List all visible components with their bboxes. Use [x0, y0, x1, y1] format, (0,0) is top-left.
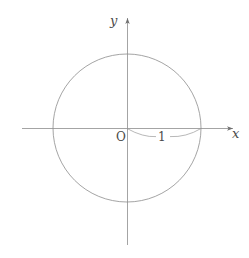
- y-axis-label: y: [110, 14, 117, 27]
- x-axis-label: x: [232, 127, 239, 140]
- unit-circle-path: [53, 54, 201, 202]
- unit-circle-figure: [0, 0, 249, 258]
- figure-canvas: y x O 1: [0, 0, 249, 258]
- radius-brace-right-segment: [170, 129, 201, 137]
- radius-value-label: 1: [158, 131, 166, 143]
- origin-label: O: [116, 131, 126, 143]
- radius-brace-left-segment: [127, 129, 156, 137]
